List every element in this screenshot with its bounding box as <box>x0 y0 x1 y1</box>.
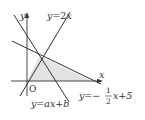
y-axis-label: y <box>19 10 26 21</box>
line-y-2x <box>20 12 70 96</box>
origin-label: O <box>29 84 36 94</box>
label-y-half-lhs: y=− <box>78 90 100 101</box>
label-y-ax-b: y=ax+b <box>30 98 69 109</box>
coordinate-diagram: y x O y=2x y=ax+b y=− 1 2 x+5 <box>0 0 145 120</box>
label-y-half-den: 2 <box>106 97 111 106</box>
x-axis-label: x <box>99 69 105 80</box>
label-y-2x: y=2x <box>46 10 72 21</box>
label-y-half-rhs: x+5 <box>113 90 132 101</box>
label-y-half-num: 1 <box>106 86 111 95</box>
